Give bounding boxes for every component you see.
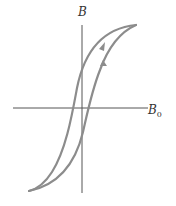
y-axis-label-text: B bbox=[78, 5, 87, 19]
x-axis-label-subscript: 0 bbox=[157, 110, 162, 119]
hysteresis-diagram: B B0 bbox=[0, 0, 176, 206]
arrow-up-icon bbox=[100, 60, 107, 66]
x-axis-label-text: B bbox=[148, 103, 157, 117]
arrow-down-icon bbox=[99, 42, 105, 51]
x-axis-label: B0 bbox=[148, 104, 162, 119]
y-axis-label: B bbox=[78, 6, 87, 18]
